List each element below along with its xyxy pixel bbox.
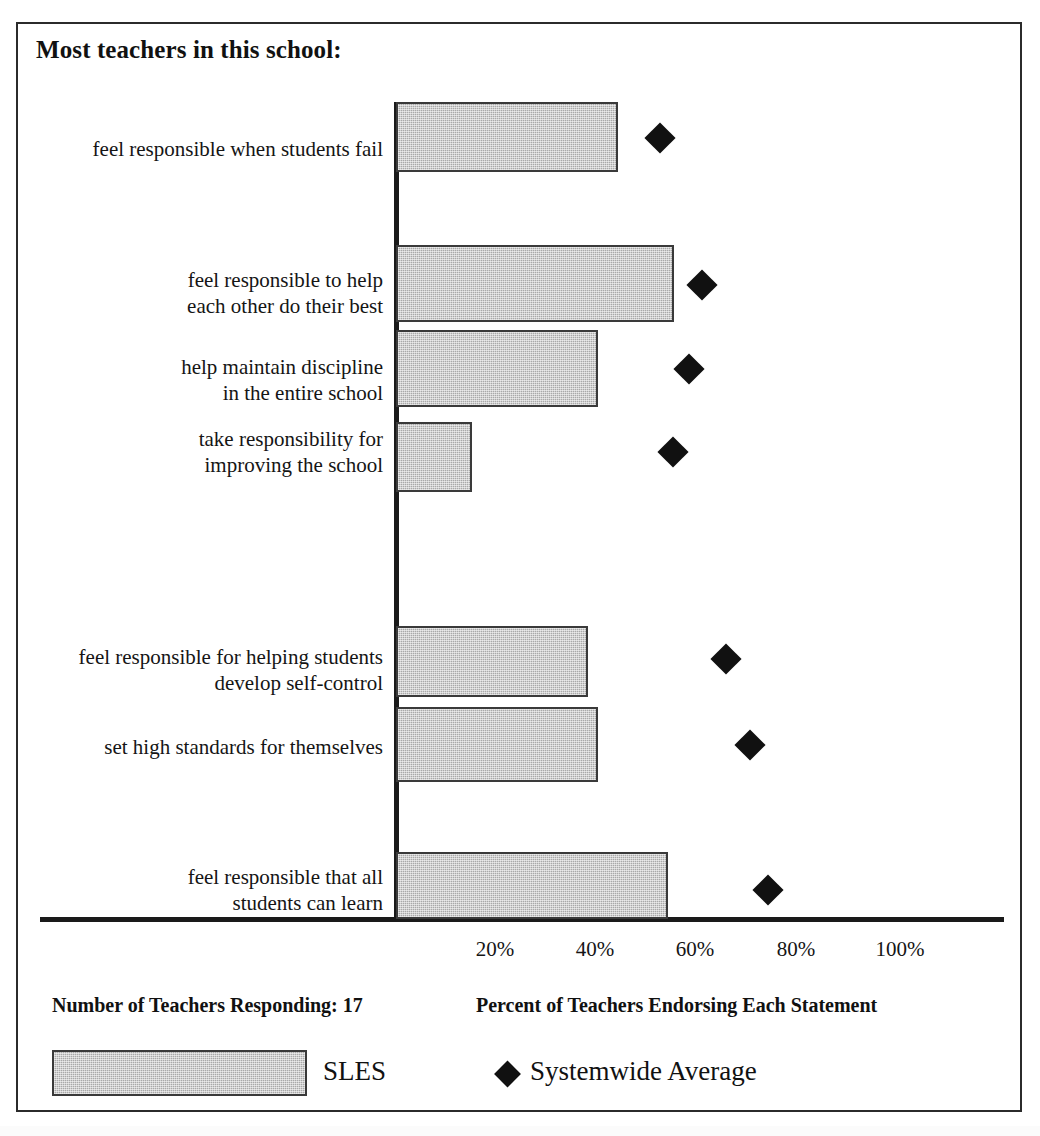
scan-edge-artifact (0, 1126, 1040, 1136)
x-tick-label-80: 80% (756, 937, 836, 962)
legend-bar-label: SLES (323, 1056, 386, 1087)
category-label-line: feel responsible for helping students (38, 644, 383, 670)
bar-sles (396, 626, 588, 697)
category-label-7: feel responsible that all students can l… (38, 864, 383, 916)
legend-bar-swatch (52, 1050, 307, 1096)
category-label-1: feel responsible when students fail (38, 136, 383, 162)
bar-sles (396, 102, 618, 172)
category-label-line: feel responsible to help (38, 267, 383, 293)
x-tick-label-20: 20% (455, 937, 535, 962)
category-label-line: develop self-control (38, 670, 383, 696)
category-label-6: set high standards for themselves (38, 734, 383, 760)
bar-sles (396, 245, 674, 322)
bar-row-6 (396, 707, 996, 782)
bar-sles (396, 422, 472, 492)
category-label-line: feel responsible when students fail (38, 136, 383, 162)
category-label-line: students can learn (38, 890, 383, 916)
y-axis-line (394, 102, 399, 922)
category-label-3: help maintain discipline in the entire s… (38, 354, 383, 406)
plot-area: feel responsible when students fail feel… (18, 24, 1024, 1114)
bar-sles (396, 852, 668, 919)
respondents-count-label: Number of Teachers Responding: 17 (52, 994, 363, 1017)
bar-sles (396, 330, 598, 407)
category-label-line: help maintain discipline (38, 354, 383, 380)
category-label-line: in the entire school (38, 380, 383, 406)
category-label-5: feel responsible for helping students de… (38, 644, 383, 696)
x-tick-label-60: 60% (655, 937, 735, 962)
category-label-4: take responsibility for improving the sc… (38, 426, 383, 478)
x-axis-caption: Percent of Teachers Endorsing Each State… (476, 994, 877, 1017)
category-label-line: feel responsible that all (38, 864, 383, 890)
chart-frame: Most teachers in this school: feel respo… (16, 22, 1022, 1112)
legend-diamond-label: Systemwide Average (530, 1056, 757, 1087)
bar-row-7 (396, 852, 996, 919)
bar-row-4 (396, 422, 996, 492)
category-label-line: set high standards for themselves (38, 734, 383, 760)
category-label-line: take responsibility for (38, 426, 383, 452)
category-label-line: improving the school (38, 452, 383, 478)
bar-row-5 (396, 626, 996, 697)
category-label-2: feel responsible to help each other do t… (38, 267, 383, 319)
category-label-line: each other do their best (38, 293, 383, 319)
bar-sles (396, 707, 598, 782)
bar-row-1 (396, 102, 996, 172)
x-tick-label-100: 100% (860, 937, 940, 962)
x-tick-label-40: 40% (555, 937, 635, 962)
